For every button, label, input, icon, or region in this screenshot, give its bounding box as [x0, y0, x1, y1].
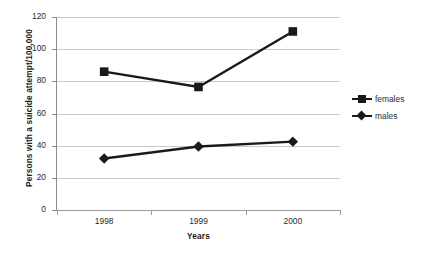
y-tick-label: 80: [12, 76, 46, 85]
gridline: [57, 210, 340, 211]
x-tick: [340, 210, 341, 215]
legend-label-males: males: [375, 111, 397, 121]
data-point-diamond-marker: [99, 153, 109, 163]
data-point-square-marker: [100, 67, 109, 76]
y-tick-label: 60: [12, 109, 46, 118]
x-tick-label: 1999: [169, 216, 229, 226]
x-tick-label: 1998: [74, 216, 134, 226]
series-males: [99, 136, 298, 163]
data-point-diamond-marker: [288, 136, 298, 146]
y-tick-label: 40: [12, 141, 46, 150]
y-tick-label: 0: [12, 205, 46, 214]
series-females: [100, 27, 297, 91]
legend-item-females[interactable]: females: [352, 92, 424, 106]
chart-container: Persons with a suicide attempt/100,000 0…: [0, 0, 426, 256]
x-tick: [151, 210, 152, 215]
x-axis-title: Years: [57, 231, 340, 241]
legend-marker-diamond-icon: [352, 110, 372, 122]
y-tick-label: 120: [12, 12, 46, 21]
data-point-square-marker: [194, 83, 203, 92]
series-layer: [57, 17, 340, 210]
x-tick: [246, 210, 247, 215]
data-point-square-marker: [289, 27, 298, 36]
x-tick: [57, 210, 58, 215]
data-point-diamond-marker: [193, 141, 203, 151]
plot-area: [57, 17, 340, 210]
y-tick-label: 100: [12, 44, 46, 53]
legend-marker-square-icon: [352, 93, 372, 105]
legend-label-females: females: [375, 94, 404, 104]
legend-item-males[interactable]: males: [352, 109, 424, 123]
chart-legend: females males: [352, 92, 424, 126]
y-tick-label: 20: [12, 173, 46, 182]
series-line: [104, 31, 293, 86]
x-tick-label: 2000: [263, 216, 323, 226]
